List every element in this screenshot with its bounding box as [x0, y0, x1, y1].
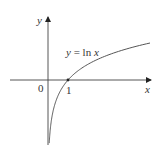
y-axis-label: y [36, 14, 42, 26]
equation-var: x [93, 46, 99, 58]
equation-annotation: y = ln x [65, 46, 99, 58]
x-axis-label: x [144, 83, 150, 95]
tick-label-one: 1 [66, 84, 72, 96]
equation-equals: = [71, 46, 83, 58]
point-one-zero [67, 79, 70, 82]
equation-fn: ln [83, 46, 94, 58]
ln-graph: y x 0 1 y = ln x [0, 0, 167, 150]
ln-curve [49, 43, 150, 143]
origin-label: 0 [38, 82, 44, 94]
